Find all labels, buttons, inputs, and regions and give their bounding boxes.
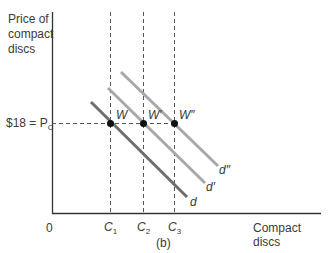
origin-label: 0 (46, 221, 53, 235)
label-c1: C1 (104, 220, 117, 239)
price-label-sub: C (48, 123, 54, 132)
demand-curve-d2 (121, 72, 218, 166)
panel-label: (b) (156, 236, 171, 250)
label-w: W (116, 108, 127, 122)
c1-sub: 1 (113, 227, 117, 236)
label-w1: W′ (148, 108, 162, 122)
c3-sub: 3 (177, 227, 181, 236)
y-axis-label-line: discs (8, 42, 53, 57)
price-label: $18 = PC (6, 116, 53, 135)
y-axis-label: Price of compact discs (8, 12, 53, 57)
c2-name: C (137, 220, 146, 234)
label-d1: d′ (206, 180, 215, 194)
y-axis-label-line: Price of (8, 12, 53, 27)
point-w2 (171, 120, 178, 127)
c3-name: C (168, 220, 177, 234)
y-axis-label-line: compact (8, 27, 53, 42)
price-label-text: $18 = P (6, 116, 48, 130)
point-w (107, 120, 114, 127)
label-d2: d″ (219, 163, 230, 177)
point-w1 (140, 120, 147, 127)
x-axis-label: Compact discs (253, 221, 329, 249)
label-c2: C2 (137, 220, 150, 239)
c2-sub: 2 (146, 227, 150, 236)
c1-name: C (104, 220, 113, 234)
label-w2: W″ (179, 108, 195, 122)
label-d: d (190, 195, 197, 209)
